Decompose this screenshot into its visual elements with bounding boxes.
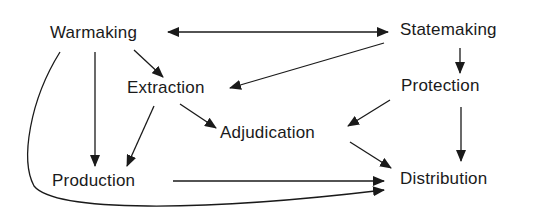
node-statemaking: Statemaking bbox=[400, 20, 497, 40]
node-production: Production bbox=[52, 171, 135, 191]
node-protection: Protection bbox=[401, 76, 480, 96]
node-extraction: Extraction bbox=[127, 78, 205, 98]
edge-adjudication-distribution bbox=[350, 142, 391, 168]
node-adjudication: Adjudication bbox=[220, 123, 315, 143]
diagram-canvas: Warmaking Statemaking Extraction Protect… bbox=[0, 0, 540, 218]
node-warmaking: Warmaking bbox=[50, 23, 137, 43]
edge-statemaking-extraction bbox=[230, 43, 384, 88]
edge-extraction-production bbox=[127, 106, 154, 166]
edge-extraction-adjudication bbox=[180, 104, 216, 128]
edge-warmaking-extraction bbox=[134, 50, 163, 77]
edge-protection-adjudication bbox=[348, 100, 390, 126]
node-distribution: Distribution bbox=[400, 169, 487, 189]
